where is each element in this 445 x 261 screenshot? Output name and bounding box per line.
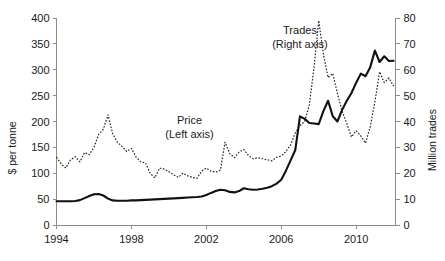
right-axis-tick-labels: 01020304050607080 (404, 12, 416, 231)
series-group (57, 21, 394, 202)
x-axis-group: 19941998200220062010 (44, 225, 395, 245)
right-tick-label: 10 (404, 193, 416, 205)
left-tick-label: 250 (31, 90, 49, 102)
left-axis-group: 050100150200250300350400 $ per tonne (6, 12, 57, 231)
right-tick-label: 40 (404, 116, 416, 128)
right-tick-label: 0 (404, 219, 410, 231)
x-tick-label: 2010 (344, 233, 368, 245)
price-label-line1: Price (177, 114, 202, 126)
x-tick-label: 1994 (44, 233, 68, 245)
left-tick-label: 350 (31, 38, 49, 50)
dual-axis-line-chart: 050100150200250300350400 $ per tonne 010… (0, 0, 445, 261)
price-series-line (57, 21, 394, 179)
x-axis-ticks (57, 225, 357, 229)
trades-label-line1: Trades (283, 24, 317, 36)
x-tick-label: 2006 (269, 233, 293, 245)
x-tick-label: 1998 (119, 233, 143, 245)
price-label-line2: (Left axis) (165, 128, 213, 140)
x-axis-tick-labels: 19941998200220062010 (44, 233, 368, 245)
left-axis-tick-labels: 050100150200250300350400 (31, 12, 49, 231)
right-tick-label: 70 (404, 38, 416, 50)
right-tick-label: 20 (404, 167, 416, 179)
left-tick-label: 0 (43, 219, 49, 231)
chart-container: 050100150200250300350400 $ per tonne 010… (0, 0, 445, 261)
left-axis-ticks (53, 18, 57, 225)
left-tick-label: 100 (31, 167, 49, 179)
trades-series-line (57, 51, 394, 202)
right-tick-label: 30 (404, 141, 416, 153)
left-tick-label: 300 (31, 64, 49, 76)
right-axis-ticks (396, 18, 400, 225)
right-tick-label: 60 (404, 64, 416, 76)
right-axis-title: Million trades (426, 109, 438, 171)
right-axis-group: 01020304050607080 Million trades (396, 12, 439, 231)
left-tick-label: 150 (31, 141, 49, 153)
x-tick-label: 2002 (194, 233, 218, 245)
right-tick-label: 80 (404, 12, 416, 24)
left-tick-label: 200 (31, 116, 49, 128)
left-tick-label: 400 (31, 12, 49, 24)
left-axis-title: $ per tonne (6, 121, 18, 174)
right-tick-label: 50 (404, 90, 416, 102)
trades-label-line2: (Right axis) (272, 38, 328, 50)
chart-annotations: Price(Left axis)Trades(Right axis) (165, 24, 327, 140)
left-tick-label: 50 (37, 193, 49, 205)
